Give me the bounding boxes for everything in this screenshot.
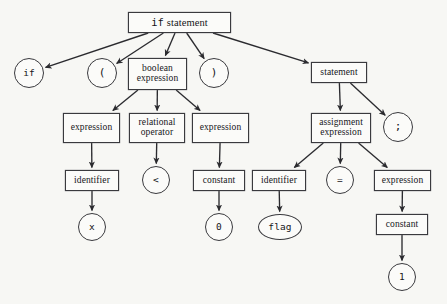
- node-terminal-flag: flag: [258, 214, 302, 240]
- edge-statement-to-assign_expr: [339, 83, 340, 111]
- node-terminal-left-paren: (: [87, 58, 117, 88]
- edge-expr_r-to-const_l: [219, 143, 220, 168]
- node-boolean-expression: boolean expression: [128, 58, 187, 90]
- node-label-expr-rr: expression: [382, 176, 424, 186]
- node-constant-left: constant: [193, 170, 245, 191]
- edge-statement-to-semicolon: [350, 83, 385, 115]
- node-label-lparen: (: [99, 67, 106, 78]
- node-label-assign-tok: =: [337, 175, 343, 185]
- node-label-const-l: constant: [203, 176, 235, 186]
- node-terminal-semicolon: ;: [383, 112, 413, 142]
- node-label-zero-tok: 0: [216, 222, 222, 232]
- node-if-statement: if statement: [128, 12, 231, 33]
- node-statement: statement: [311, 62, 367, 83]
- node-label-root: if statement: [151, 17, 208, 29]
- edge-assign_expr-to-expr_rr: [359, 143, 388, 168]
- node-constant-right: constant: [376, 214, 428, 235]
- node-terminal-x: x: [78, 213, 106, 241]
- edge-root-to-bool_expr: [165, 33, 175, 56]
- edge-layer: [0, 0, 447, 304]
- node-terminal-equals: =: [326, 166, 354, 194]
- node-terminal-right-paren: ): [199, 58, 229, 88]
- node-label-const-r: constant: [386, 220, 418, 230]
- edge-assign_expr-to-ident_r: [294, 143, 323, 168]
- node-assignment-expression: assignment expression: [311, 113, 371, 143]
- node-terminal-one: 1: [388, 263, 416, 291]
- node-label-x-tok: x: [89, 222, 95, 232]
- node-label-ident-l: identifier: [74, 176, 110, 186]
- node-label-statement: statement: [320, 68, 357, 78]
- edge-root-to-rparen: [187, 33, 204, 59]
- node-label-lt-tok: <: [153, 175, 159, 185]
- node-label-expr-l: expression: [71, 123, 113, 133]
- node-expression-right: expression: [192, 113, 249, 143]
- node-identifier-left: identifier: [65, 170, 119, 191]
- parse-tree-diagram: if statement if ( boolean expression ) s…: [0, 0, 447, 304]
- node-label-semicolon: ;: [395, 121, 402, 132]
- node-label-if-tok: if: [23, 68, 35, 78]
- node-expression-left: expression: [63, 113, 120, 143]
- node-terminal-if: if: [14, 58, 44, 88]
- node-label-one-tok: 1: [399, 272, 405, 282]
- node-label-ident-r: identifier: [261, 176, 297, 186]
- node-identifier-right: identifier: [252, 170, 306, 191]
- node-label-rel-op: relational operator: [139, 118, 176, 137]
- node-terminal-zero: 0: [205, 213, 233, 241]
- node-label-bool-expr: boolean expression: [137, 64, 179, 83]
- node-terminal-less-than: <: [142, 166, 170, 194]
- node-label-expr-r: expression: [200, 123, 242, 133]
- node-label-assign-expr: assignment expression: [319, 118, 363, 137]
- edge-root-to-statement: [213, 33, 309, 63]
- node-label-flag-tok: flag: [268, 222, 291, 232]
- node-expression-assigned: expression: [374, 170, 431, 191]
- edge-bool_expr-to-expr_r: [176, 90, 200, 111]
- node-relational-operator: relational operator: [129, 113, 185, 143]
- node-label-rparen: ): [211, 67, 218, 78]
- edge-bool_expr-to-expr_l: [113, 90, 138, 111]
